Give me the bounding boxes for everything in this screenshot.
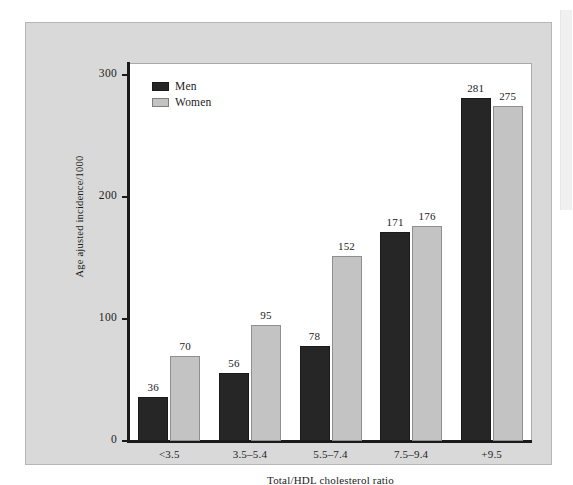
bar-value-label: 70 bbox=[160, 340, 210, 352]
bar-value-label: 275 bbox=[483, 90, 533, 102]
y-tick-mark bbox=[122, 440, 130, 442]
bar-men bbox=[138, 397, 168, 441]
legend-label: Men bbox=[175, 80, 197, 92]
bar-value-label: 176 bbox=[402, 210, 452, 222]
legend-item-men: Men bbox=[152, 79, 211, 93]
y-tick-mark bbox=[122, 74, 130, 76]
page-edge-artifact bbox=[560, 10, 572, 210]
x-tick-label: +9.5 bbox=[442, 448, 542, 460]
bar-women bbox=[251, 325, 281, 441]
bar-women bbox=[493, 106, 523, 441]
y-tick-label: 0 bbox=[67, 433, 117, 445]
bar-women bbox=[170, 356, 200, 441]
bar-men bbox=[380, 232, 410, 441]
x-axis-title: Total/HDL cholesterol ratio bbox=[129, 474, 532, 485]
chart-legend: MenWomen bbox=[152, 79, 211, 111]
legend-label: Women bbox=[175, 96, 211, 108]
y-tick-mark bbox=[122, 196, 130, 198]
y-tick-label: 300 bbox=[67, 67, 117, 79]
bar-men bbox=[219, 373, 249, 441]
figure-panel: Age ajusted incidence/1000 0100200300 <3… bbox=[25, 22, 552, 465]
bar-value-label: 152 bbox=[322, 240, 372, 252]
bar-women bbox=[332, 256, 362, 441]
bar-men bbox=[461, 98, 491, 441]
y-tick-label: 100 bbox=[67, 311, 117, 323]
bar-men bbox=[300, 346, 330, 441]
legend-swatch-women-icon bbox=[152, 98, 169, 107]
scanned-page: Age ajusted incidence/1000 0100200300 <3… bbox=[0, 0, 573, 485]
bar-women bbox=[412, 226, 442, 441]
y-axis-title: Age ajusted incidence/1000 bbox=[74, 127, 85, 307]
legend-item-women: Women bbox=[152, 95, 211, 109]
legend-swatch-men-icon bbox=[152, 82, 169, 91]
y-tick-mark bbox=[122, 318, 130, 320]
bar-value-label: 95 bbox=[241, 309, 291, 321]
y-tick-label: 200 bbox=[67, 189, 117, 201]
